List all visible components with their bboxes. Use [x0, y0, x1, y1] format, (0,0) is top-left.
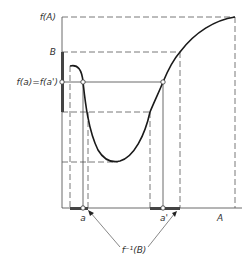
- arrow-line-left: [90, 212, 120, 247]
- function-curve: [70, 17, 235, 162]
- label-A: A: [216, 213, 223, 223]
- diagram-canvas: f(A) B f(a)=f(a') a a' A f⁻¹(B): [0, 0, 250, 267]
- label-preimage: f⁻¹(B): [122, 245, 147, 255]
- aprime-point-on-axis: [161, 206, 165, 210]
- label-aprime: a': [160, 213, 168, 223]
- curve-point-aprime: [161, 80, 165, 84]
- label-fa-equals-faprime: f(a)=f(a'): [17, 77, 58, 87]
- label-a: a: [80, 213, 86, 223]
- label-fA: f(A): [40, 12, 56, 22]
- curve-point-a: [81, 80, 85, 84]
- a-point-on-axis: [81, 206, 85, 210]
- label-B: B: [50, 47, 56, 57]
- fa-point-on-axis: [60, 80, 64, 84]
